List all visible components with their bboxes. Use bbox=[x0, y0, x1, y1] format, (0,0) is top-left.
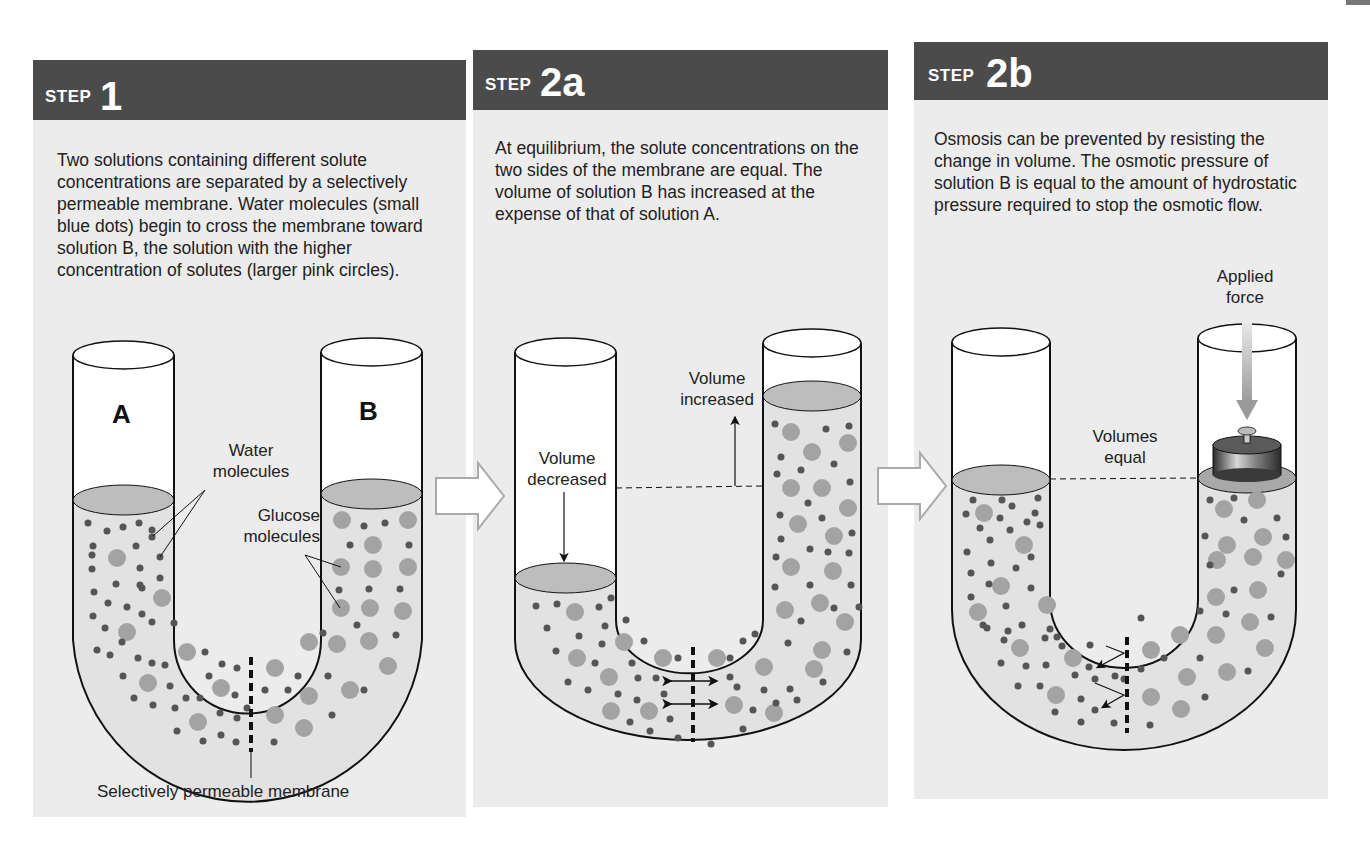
next-step-arrow-1 bbox=[436, 463, 504, 529]
glucose-molecules-label: Glucose molecules bbox=[210, 505, 320, 547]
membrane-label: Selectively permeable membrane bbox=[97, 781, 349, 802]
u-tube-step-2b bbox=[952, 323, 1296, 750]
tube-a-label: A bbox=[112, 399, 131, 430]
tube-b-label: B bbox=[359, 396, 378, 427]
volume-decreased-label: Volume decreased bbox=[517, 448, 617, 490]
volumes-equal-label: Volumes equal bbox=[1075, 426, 1175, 468]
osmosis-diagram bbox=[0, 0, 1370, 847]
water-molecules-label: Water molecules bbox=[196, 440, 306, 482]
applied-force-label: Applied force bbox=[1200, 266, 1290, 308]
next-step-arrow-2 bbox=[878, 453, 946, 519]
volume-increased-label: Volume increased bbox=[672, 368, 762, 410]
